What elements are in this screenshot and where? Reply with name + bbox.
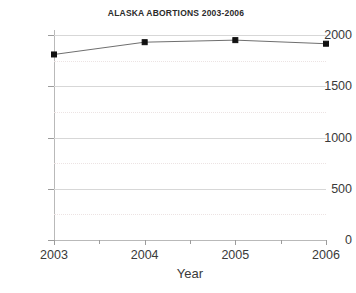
x-axis-tick-label: 2006: [296, 248, 356, 262]
x-axis-tick-mark-minor: [281, 240, 282, 244]
x-axis-tick-mark-minor: [190, 240, 191, 244]
series-markers: [52, 38, 329, 57]
chart-title: ALASKA ABORTIONS 2003-2006: [0, 8, 352, 18]
data-point-marker: [52, 52, 57, 57]
x-axis-tick-mark: [54, 240, 55, 245]
x-axis-tick-mark: [326, 240, 327, 245]
plot-area: [54, 35, 326, 240]
x-axis-tick-label: 2003: [24, 248, 84, 262]
data-series: [54, 35, 326, 240]
data-point-marker: [233, 38, 238, 43]
data-point-marker: [324, 41, 329, 46]
x-axis-tick-mark: [235, 240, 236, 245]
x-axis-tick-label: 2005: [205, 248, 265, 262]
series-line: [54, 40, 326, 54]
x-axis-tick-mark: [145, 240, 146, 245]
x-axis-tick-mark-minor: [99, 240, 100, 244]
data-point-marker: [142, 40, 147, 45]
x-axis-tick-label: 2004: [115, 248, 175, 262]
x-axis-title: Year: [54, 266, 326, 281]
